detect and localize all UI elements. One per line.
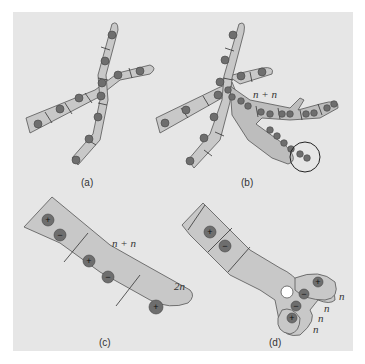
panel-d-haploid-label-3: n [318,312,324,324]
svg-text:+: + [45,215,50,225]
svg-text:−: − [57,230,62,240]
svg-text:−: − [301,289,306,299]
panel-c-diploid-label: 2n [174,280,186,292]
panel-c-dikaryon-label: n + n [112,237,136,249]
panel-d: + − + − − + n n n n (d) [182,203,345,348]
panel-c: + − + − + n + n 2n (c) [24,197,193,348]
panel-d-haploid-label-2: n [324,302,330,314]
svg-text:−: − [105,272,110,282]
svg-text:+: + [207,227,212,237]
svg-text:+: + [153,302,158,312]
panel-c-label: (c) [99,337,111,348]
fungal-hyphae-diagram: (a) [0,0,365,364]
panel-a-label: (a) [81,177,93,188]
svg-text:−: − [293,301,298,311]
panel-d-haploid-label-1: n [339,290,345,302]
panel-a: (a) [26,23,154,188]
svg-text:−: − [222,241,227,251]
panel-b-ploidy-label: n + n [253,88,277,100]
svg-text:+: + [289,313,294,323]
panel-d-haploid-label-4: n [313,323,319,335]
panel-b-label: (b) [241,177,253,188]
empty-vesicle [281,286,293,298]
panel-d-label: (d) [269,337,281,348]
panel-b: n + n (b) [156,23,338,188]
svg-text:+: + [315,277,320,287]
svg-text:+: + [86,256,91,266]
